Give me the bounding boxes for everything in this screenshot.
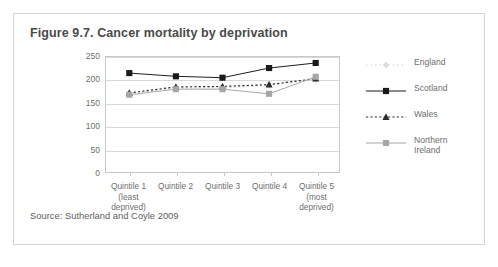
y-axis-tick-label: 200 — [86, 74, 100, 84]
plot-area — [105, 56, 340, 173]
legend-item-england[interactable]: England — [364, 58, 482, 84]
x-axis-tick-label: Quintile 5 (most deprived) — [287, 181, 347, 213]
legend-marker-icon — [364, 84, 408, 98]
y-axis-tick-label: 150 — [86, 98, 100, 108]
series-layer — [106, 57, 339, 172]
legend-item-wales[interactable]: Wales — [364, 110, 482, 136]
legend-label: Northern Ireland — [414, 135, 447, 155]
figure-card: Figure 9.7. Cancer mortality by deprivat… — [13, 13, 485, 245]
legend-marker-icon — [364, 58, 408, 72]
y-axis-tick-label: 50 — [91, 145, 100, 155]
x-axis-tick — [130, 172, 131, 176]
legend-label: Wales — [414, 109, 438, 119]
legend-marker-icon — [364, 110, 408, 124]
y-axis-tick-label: 250 — [86, 51, 100, 61]
series-scotland — [126, 60, 319, 81]
legend-item-scotland[interactable]: Scotland — [364, 84, 482, 110]
legend-label: Scotland — [414, 83, 447, 93]
legend-item-northern-ireland[interactable]: Northern Ireland — [364, 136, 482, 162]
chart-region: 050100150200250 Quintile 1 (least depriv… — [14, 48, 485, 206]
x-axis-tick — [318, 172, 319, 176]
x-axis-tick — [224, 172, 225, 176]
source-note: Source: Sutherland and Coyle 2009 — [30, 210, 179, 221]
chart-legend: EnglandScotlandWalesNorthern Ireland — [364, 58, 482, 162]
figure-title: Figure 9.7. Cancer mortality by deprivat… — [30, 26, 288, 40]
legend-marker-icon — [364, 136, 408, 150]
x-axis-tick — [177, 172, 178, 176]
legend-label: England — [414, 57, 446, 67]
y-axis-tick-label: 0 — [95, 168, 100, 178]
x-axis-tick — [271, 172, 272, 176]
y-axis-tick-label: 100 — [86, 121, 100, 131]
